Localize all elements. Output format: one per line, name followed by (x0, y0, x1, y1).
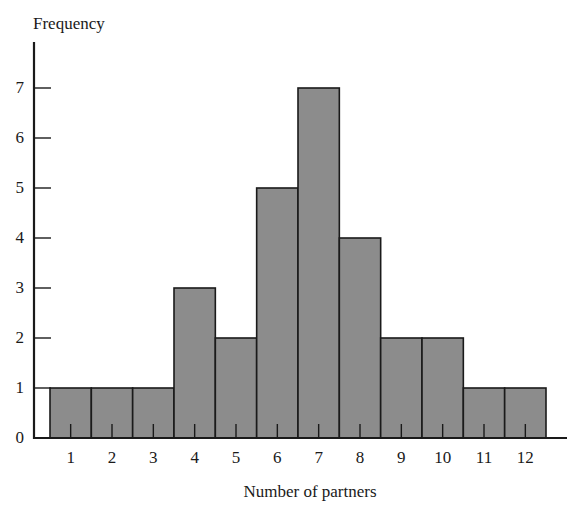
y-axis-title: Frequency (33, 14, 105, 34)
x-tick-label: 10 (423, 448, 463, 468)
y-tick-label: 0 (4, 429, 24, 446)
x-tick-label: 6 (257, 448, 297, 468)
y-tick-label: 6 (4, 129, 24, 146)
y-tick-label: 4 (4, 229, 24, 246)
histogram-bar (381, 338, 422, 438)
histogram-bar (257, 188, 298, 438)
y-tick-label: 5 (4, 179, 24, 196)
histogram-bar (298, 88, 339, 438)
histogram-bar (215, 338, 256, 438)
histogram-bar (422, 338, 463, 438)
histogram-bar (174, 288, 215, 438)
y-tick-label: 2 (4, 329, 24, 346)
x-tick-label: 5 (216, 448, 256, 468)
histogram-plot (0, 0, 585, 511)
x-tick-label: 3 (133, 448, 173, 468)
y-tick-label: 7 (4, 79, 24, 96)
x-tick-label: 8 (340, 448, 380, 468)
x-tick-label: 2 (92, 448, 132, 468)
x-axis-title: Number of partners (0, 482, 585, 502)
x-tick-label: 4 (175, 448, 215, 468)
x-tick-label: 11 (464, 448, 504, 468)
x-tick-label: 1 (51, 448, 91, 468)
histogram-bar (339, 238, 380, 438)
x-tick-label: 7 (299, 448, 339, 468)
y-tick-label: 3 (4, 279, 24, 296)
x-tick-label: 9 (381, 448, 421, 468)
x-tick-label: 12 (505, 448, 545, 468)
y-tick-label: 1 (4, 379, 24, 396)
